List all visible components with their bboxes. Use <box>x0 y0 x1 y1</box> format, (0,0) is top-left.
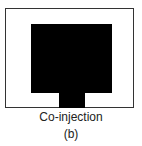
injection-gate <box>59 93 85 108</box>
panel-label: (b) <box>0 127 142 141</box>
injected-core-region <box>31 24 112 93</box>
figure-caption: Co-injection <box>0 110 142 124</box>
mold-outline <box>5 8 134 108</box>
